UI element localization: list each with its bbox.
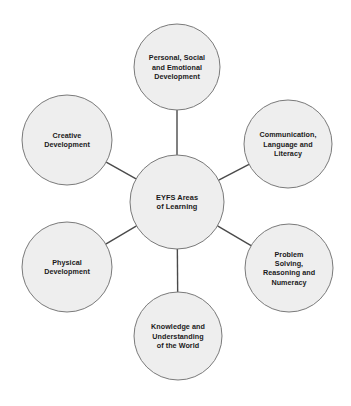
node-creative-development[interactable]: CreativeDevelopment bbox=[22, 95, 112, 185]
node-label-line: of Learning bbox=[157, 202, 198, 211]
node-label-line: Personal, Social bbox=[149, 53, 205, 62]
node-label-line: Development bbox=[44, 267, 90, 276]
node-label-line: Solving, bbox=[275, 259, 303, 268]
node-problem-solving-reasoning-numeracy[interactable]: ProblemSolving,Reasoning andNumeracy bbox=[245, 224, 333, 312]
node-personal-social-emotional-development[interactable]: Personal, Socialand EmotionalDevelopment bbox=[134, 24, 220, 110]
node-label-line: Development bbox=[44, 140, 90, 149]
eyfs-areas-of-learning-diagram: Personal, Socialand EmotionalDevelopment… bbox=[0, 0, 351, 406]
node-physical-development[interactable]: PhysicalDevelopment bbox=[22, 222, 112, 312]
node-label-knowledge-understanding-world: Knowledge andUnderstandingof the World bbox=[151, 322, 205, 350]
connector-hub-to-problem-solving-reasoning-numeracy bbox=[217, 226, 251, 246]
node-hub[interactable]: EYFS Areasof Learning bbox=[130, 155, 224, 249]
connector-hub-to-creative-development bbox=[106, 162, 136, 179]
node-label-line: Understanding bbox=[152, 332, 203, 341]
node-label-line: and Emotional bbox=[152, 63, 202, 72]
node-label-line: Physical bbox=[52, 258, 82, 267]
node-label-line: Language and bbox=[263, 140, 312, 149]
node-group: Personal, Socialand EmotionalDevelopment… bbox=[22, 24, 333, 380]
node-label-line: Development bbox=[154, 72, 200, 81]
node-label-hub: EYFS Areasof Learning bbox=[156, 193, 198, 211]
node-label-line: Creative bbox=[53, 131, 82, 140]
node-label-line: of the World bbox=[157, 341, 199, 350]
node-label-personal-social-emotional-development: Personal, Socialand EmotionalDevelopment bbox=[149, 53, 205, 81]
node-label-line: Numeracy bbox=[271, 278, 306, 287]
node-communication-language-literacy[interactable]: Communication,Language andLiteracy bbox=[244, 100, 332, 188]
connector-hub-to-communication-language-literacy bbox=[219, 164, 249, 180]
connector-hub-to-physical-development bbox=[106, 226, 137, 244]
diagram-canvas: Personal, Socialand EmotionalDevelopment… bbox=[0, 0, 351, 406]
node-label-line: Literacy bbox=[274, 149, 302, 158]
node-label-line: Reasoning and bbox=[263, 268, 315, 277]
node-knowledge-understanding-world[interactable]: Knowledge andUnderstandingof the World bbox=[134, 292, 222, 380]
node-label-line: Knowledge and bbox=[151, 322, 205, 331]
node-label-line: Problem bbox=[274, 250, 303, 259]
node-label-line: EYFS Areas bbox=[156, 193, 198, 202]
node-label-line: Communication, bbox=[259, 130, 316, 139]
